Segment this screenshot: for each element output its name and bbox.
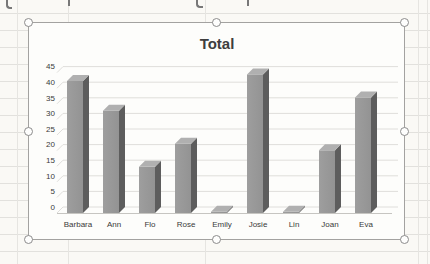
x-axis-labels: BarbaraAnnFloRoseEmilyJosieLinJoanEva — [64, 220, 374, 229]
chart-title[interactable]: Total — [200, 35, 235, 52]
y-axis-tick-label: 0 — [51, 203, 56, 212]
y-axis-and-gridlines: 051015202530354045 — [46, 62, 398, 213]
cropped-text-fragment — [68, 0, 70, 6]
sheet-row-line — [0, 251, 430, 252]
bar-flo[interactable] — [139, 161, 161, 213]
y-axis-tick-label: 30 — [46, 109, 55, 118]
bar-barbara[interactable] — [67, 75, 89, 213]
cropped-text-fragment — [247, 0, 249, 6]
x-axis-tick-label: Lin — [289, 220, 300, 229]
x-axis-tick-label: Rose — [177, 220, 196, 229]
bar-josie[interactable] — [247, 68, 269, 213]
sheet-column-line — [418, 0, 419, 264]
selection-handle-sw[interactable] — [24, 235, 33, 244]
selection-handle-nw[interactable] — [24, 18, 33, 27]
bar-joan[interactable] — [319, 144, 341, 213]
selection-handle-w[interactable] — [24, 127, 33, 136]
y-axis-tick-label: 45 — [46, 62, 55, 71]
y-axis-tick-label: 35 — [46, 94, 55, 103]
bar-chart: Total051015202530354045BarbaraAnnFloRose… — [29, 23, 404, 239]
worksheet-area: Total051015202530354045BarbaraAnnFloRose… — [0, 0, 430, 264]
y-axis-tick-label: 15 — [46, 156, 55, 165]
x-axis-tick-label: Joan — [321, 220, 338, 229]
x-axis-tick-label: Eva — [359, 220, 373, 229]
bar-eva[interactable] — [355, 92, 377, 214]
y-axis-tick-label: 40 — [46, 78, 55, 87]
chart-object[interactable]: Total051015202530354045BarbaraAnnFloRose… — [28, 22, 405, 240]
selection-handle-n[interactable] — [212, 18, 221, 27]
y-axis-tick-label: 20 — [46, 140, 55, 149]
selection-handle-ne[interactable] — [400, 18, 409, 27]
sheet-column-line — [427, 0, 428, 264]
sheet-row-line — [0, 13, 430, 14]
cropped-text-fragment — [6, 0, 12, 9]
selection-handle-se[interactable] — [400, 235, 409, 244]
bar-ann[interactable] — [103, 105, 125, 213]
selection-handle-s[interactable] — [212, 235, 221, 244]
selection-handle-e[interactable] — [400, 127, 409, 136]
y-axis-tick-label: 10 — [46, 172, 55, 181]
y-axis-tick-label: 5 — [51, 187, 56, 196]
cropped-text-fragment — [196, 0, 203, 8]
sheet-column-line — [17, 0, 18, 264]
bar-rose[interactable] — [175, 138, 197, 213]
x-axis-tick-label: Emily — [212, 220, 232, 229]
x-axis-tick-label: Barbara — [64, 220, 93, 229]
y-axis-tick-label: 25 — [46, 125, 55, 134]
x-axis-tick-label: Josie — [249, 220, 268, 229]
x-axis-tick-label: Ann — [107, 220, 121, 229]
x-axis-tick-label: Flo — [144, 220, 156, 229]
